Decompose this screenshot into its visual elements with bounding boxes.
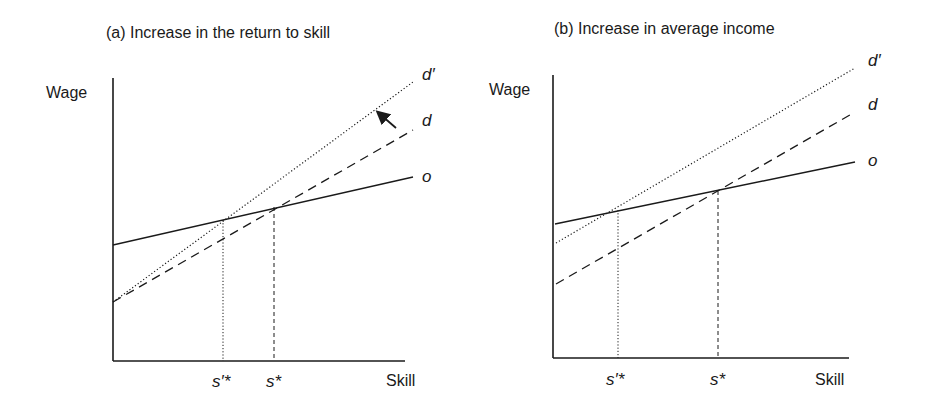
- panel-a-label-o: o: [422, 167, 431, 186]
- panel-b-curve-d: [556, 112, 855, 284]
- panel-b-x-axis-label: Skill: [815, 371, 844, 388]
- panel-b: (b) Increase in average income Wage Skil…: [489, 20, 881, 389]
- panel-a-y-axis-label: Wage: [46, 84, 87, 101]
- panel-b-label-d: d: [868, 95, 878, 114]
- panel-b-label-d-prime: d′: [868, 51, 881, 70]
- figure: (a) Increase in the return to skill Wage…: [0, 0, 927, 408]
- panel-b-label-o: o: [868, 151, 877, 170]
- panel-b-y-axis-label: Wage: [489, 81, 530, 98]
- panel-b-curve-o: [555, 162, 855, 224]
- panel-b-tick-s-prime-star: s′*: [606, 370, 626, 389]
- panel-a-curve-d: [113, 130, 413, 302]
- panel-a-tick-s-prime-star: s′*: [212, 372, 232, 391]
- panel-a-curve-o: [113, 177, 413, 245]
- panel-a-rotation-arrow-icon: [381, 115, 396, 128]
- panel-a: (a) Increase in the return to skill Wage…: [46, 24, 435, 391]
- panel-a-title: (a) Increase in the return to skill: [106, 24, 330, 41]
- panel-a-label-d-prime: d′: [422, 65, 435, 84]
- panel-a-curve-d-prime: [113, 82, 413, 302]
- panel-a-tick-s-star: s*: [266, 372, 283, 391]
- panel-b-tick-s-star: s*: [710, 370, 727, 389]
- panel-a-label-d: d: [422, 111, 432, 130]
- panel-a-x-axis-label: Skill: [386, 372, 415, 389]
- panel-b-curve-d-prime: [556, 68, 855, 243]
- panel-b-title: (b) Increase in average income: [554, 20, 775, 37]
